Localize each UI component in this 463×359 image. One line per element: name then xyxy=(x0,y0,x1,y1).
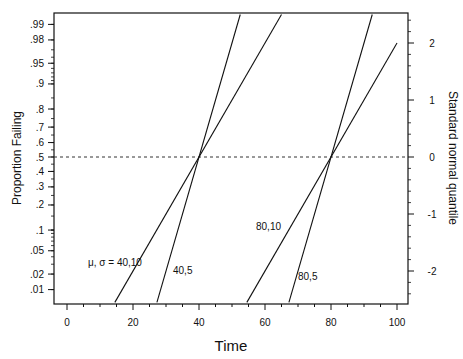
y-tick-label: .6 xyxy=(36,137,45,148)
x-axis-ticks: 020406080100 xyxy=(64,304,406,328)
x-tick-label: 60 xyxy=(259,317,271,328)
y-tick-label: .05 xyxy=(30,245,44,256)
x-tick-label: 100 xyxy=(389,317,406,328)
y-tick-label: .3 xyxy=(36,181,45,192)
y-tick-label: .99 xyxy=(30,19,44,30)
series-line xyxy=(289,15,372,303)
series-label: 80,5 xyxy=(298,271,318,282)
y-tick-label: .5 xyxy=(36,152,45,163)
x-tick-label: 0 xyxy=(64,317,70,328)
y-tick-label: .7 xyxy=(36,122,45,133)
series-label: μ, σ = 40,10 xyxy=(88,257,142,268)
series-labels: μ, σ = 40,1040,580,1080,5 xyxy=(88,221,318,282)
x-tick-label: 80 xyxy=(325,317,337,328)
y-tick-label: .95 xyxy=(30,58,44,69)
series-label: 80,10 xyxy=(256,221,281,232)
y-tick-label: .8 xyxy=(36,104,45,115)
x-axis-label: Time xyxy=(215,337,248,354)
y-tick-label: .4 xyxy=(36,166,45,177)
y-tick-label: .9 xyxy=(36,78,45,89)
y2-axis-label: Standard normal quantile xyxy=(446,91,460,225)
y2-tick-label: -1 xyxy=(428,209,437,220)
series-line xyxy=(247,43,397,302)
y-tick-label: .98 xyxy=(30,34,44,45)
series-lines xyxy=(115,15,397,303)
y2-tick-label: 1 xyxy=(429,95,435,106)
x-tick-label: 20 xyxy=(127,317,139,328)
y2-axis-ticks: -2-1012 xyxy=(408,20,437,294)
series-label: 40,5 xyxy=(173,265,193,276)
y-axis-label: Proportion Failing xyxy=(10,111,24,205)
x-tick-label: 40 xyxy=(193,317,205,328)
y-axis-ticks: .01.02.05.1.2.3.4.5.6.7.8.9.95.98.99 xyxy=(30,19,54,295)
normal-probability-plot: 020406080100 .01.02.05.1.2.3.4.5.6.7.8.9… xyxy=(0,0,463,359)
y2-tick-label: -2 xyxy=(428,266,437,277)
y-tick-label: .2 xyxy=(36,199,45,210)
series-line xyxy=(157,15,240,303)
y2-tick-label: 0 xyxy=(429,152,435,163)
y-tick-label: .01 xyxy=(30,284,44,295)
y-tick-label: .1 xyxy=(36,225,45,236)
y-tick-label: .02 xyxy=(30,269,44,280)
y2-tick-label: 2 xyxy=(429,38,435,49)
